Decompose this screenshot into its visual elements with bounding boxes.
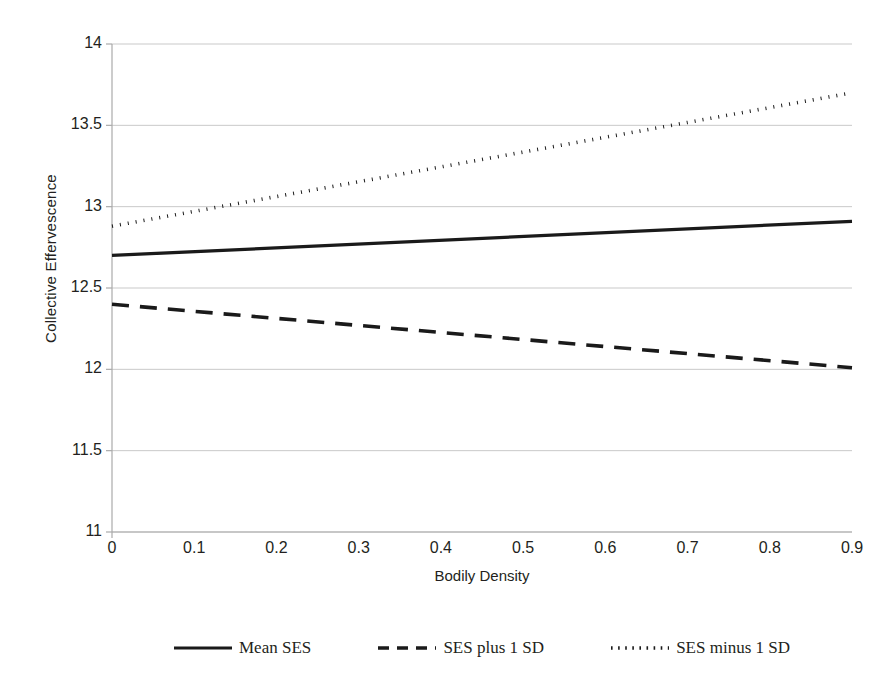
- plot-area: [0, 0, 890, 693]
- x-axis-title: Bodily Density: [112, 567, 852, 584]
- x-axis-tick-label: 0.7: [658, 540, 718, 556]
- legend-item: Mean SES: [174, 638, 311, 658]
- data-series-group: [112, 93, 852, 368]
- legend-label: Mean SES: [239, 638, 311, 658]
- x-axis-tick-label: 0.3: [329, 540, 389, 556]
- x-axis-tick-label: 0.5: [493, 540, 553, 556]
- gridlines: [112, 44, 852, 532]
- legend-line-swatch-solid: [174, 642, 232, 654]
- x-axis-tick-label: 0.4: [411, 540, 471, 556]
- chart-figure: Collective Effervescence 1111.51212.5131…: [0, 0, 890, 693]
- x-axis-tick-label: 0.8: [740, 540, 800, 556]
- legend-line-swatch-dotted: [611, 642, 669, 654]
- axis-ticks: [106, 44, 112, 538]
- data-series-line: [112, 221, 852, 255]
- x-axis-tick-label: 0.6: [575, 540, 635, 556]
- legend-item: SES minus 1 SD: [611, 638, 790, 658]
- x-axis-tick-labels: 00.10.20.30.40.50.60.70.80.9: [0, 540, 890, 564]
- legend-label: SES plus 1 SD: [443, 638, 544, 658]
- x-axis-tick-label: 0.2: [246, 540, 306, 556]
- chart-legend: Mean SESSES plus 1 SDSES minus 1 SD: [112, 628, 852, 668]
- x-axis-tick-label: 0: [82, 540, 142, 556]
- legend-label: SES minus 1 SD: [676, 638, 790, 658]
- legend-line-swatch-dashed: [378, 642, 436, 654]
- x-axis-tick-label: 0.9: [822, 540, 882, 556]
- x-axis-tick-label: 0.1: [164, 540, 224, 556]
- legend-item: SES plus 1 SD: [378, 638, 544, 658]
- data-series-line: [112, 304, 852, 367]
